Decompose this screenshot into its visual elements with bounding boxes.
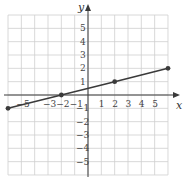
svg-text:5: 5 — [152, 99, 158, 109]
svg-text:4: 4 — [139, 99, 145, 109]
svg-text:4: 4 — [80, 37, 86, 47]
svg-text:−2: −2 — [56, 99, 69, 109]
svg-text:−3: −3 — [43, 99, 57, 109]
data-point — [112, 79, 117, 84]
svg-text:−2: −2 — [76, 117, 89, 127]
data-point — [166, 66, 171, 71]
svg-text:1: 1 — [80, 77, 86, 87]
plot-area: x y −5−3−2−11234554321−1−2−3−4−5 — [0, 0, 183, 179]
svg-text:5: 5 — [80, 23, 86, 33]
data-point — [59, 93, 64, 98]
x-axis-arrow-icon — [173, 92, 180, 98]
svg-text:3: 3 — [125, 99, 131, 109]
svg-text:−4: −4 — [76, 143, 90, 153]
data-point — [6, 106, 11, 111]
y-axis-label: y — [77, 1, 85, 14]
svg-text:3: 3 — [80, 50, 86, 60]
svg-text:2: 2 — [112, 99, 118, 109]
svg-text:−1: −1 — [76, 103, 89, 113]
svg-text:1: 1 — [99, 99, 105, 109]
y-axis-arrow-icon — [85, 4, 91, 11]
svg-text:−3: −3 — [76, 130, 90, 140]
svg-text:−5: −5 — [76, 157, 90, 167]
x-axis-label: x — [176, 99, 183, 112]
coordinate-graph: x y −5−3−2−11234554321−1−2−3−4−5 — [0, 0, 183, 179]
svg-text:2: 2 — [80, 63, 86, 73]
